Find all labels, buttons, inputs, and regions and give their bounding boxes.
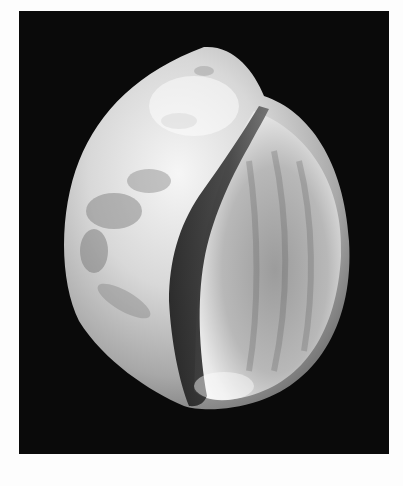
shell-highlight bbox=[149, 76, 239, 136]
aperture-highlight bbox=[194, 372, 254, 400]
seashell-photo bbox=[19, 11, 389, 454]
photo-frame bbox=[19, 11, 389, 454]
